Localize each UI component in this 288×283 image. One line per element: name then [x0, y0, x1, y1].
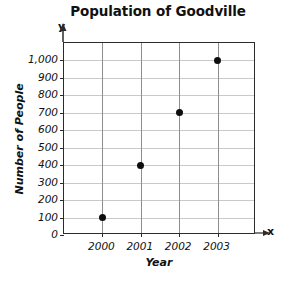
- y-tick-label-group: 01002003004005006007008009001,000: [12, 0, 58, 283]
- y-tick-label: 400: [14, 159, 58, 169]
- gridline-horizontal: [64, 78, 254, 79]
- gridline-vertical: [141, 43, 142, 233]
- x-axis-letter: x: [267, 225, 274, 238]
- y-tick-mark: [60, 113, 64, 114]
- gridline-vertical: [218, 43, 219, 233]
- gridline-horizontal: [64, 148, 254, 149]
- y-tick-label: 0: [14, 229, 58, 239]
- y-tick-mark: [60, 183, 64, 184]
- x-tick-label: 2003: [194, 240, 240, 252]
- y-tick-label: 500: [14, 142, 58, 152]
- x-tick-mark: [218, 233, 219, 237]
- gridline-horizontal: [64, 60, 254, 61]
- y-tick-mark: [60, 60, 64, 61]
- y-tick-label: 300: [14, 177, 58, 187]
- y-tick-mark: [60, 218, 64, 219]
- y-tick-mark: [60, 78, 64, 79]
- gridline-vertical: [179, 43, 180, 233]
- y-tick-mark: [60, 235, 64, 236]
- plot-area: [63, 42, 255, 234]
- y-tick-label: 900: [14, 72, 58, 82]
- gridline-horizontal: [64, 183, 254, 184]
- gridline-horizontal: [64, 200, 254, 201]
- gridline-horizontal: [64, 165, 254, 166]
- y-tick-label: 200: [14, 194, 58, 204]
- y-tick-label: 800: [14, 89, 58, 99]
- x-tick-mark: [141, 233, 142, 237]
- gridline-horizontal: [64, 130, 254, 131]
- y-tick-label: 1,000: [14, 54, 58, 64]
- y-tick-mark: [60, 165, 64, 166]
- data-point: [176, 109, 183, 116]
- y-tick-mark: [60, 130, 64, 131]
- y-tick-mark: [60, 95, 64, 96]
- gridline-horizontal: [64, 113, 254, 114]
- x-tick-mark: [102, 233, 103, 237]
- y-axis-letter: y: [58, 20, 65, 33]
- population-scatter-chart: Population of Goodville y x Number of Pe…: [0, 0, 288, 283]
- data-point: [214, 57, 221, 64]
- data-point: [137, 162, 144, 169]
- y-tick-mark: [60, 200, 64, 201]
- x-axis-title: Year: [63, 256, 255, 269]
- gridline-horizontal: [64, 95, 254, 96]
- y-tick-mark: [60, 148, 64, 149]
- y-tick-label: 700: [14, 107, 58, 117]
- gridline-vertical: [102, 43, 103, 233]
- data-point: [99, 214, 106, 221]
- x-tick-mark: [179, 233, 180, 237]
- y-tick-label: 600: [14, 124, 58, 134]
- gridline-horizontal: [64, 218, 254, 219]
- y-tick-label: 100: [14, 212, 58, 222]
